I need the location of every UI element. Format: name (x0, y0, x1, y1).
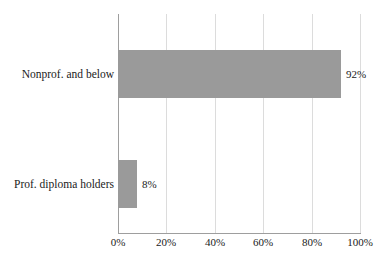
bar-value-label-prof-diploma: 8% (142, 179, 157, 190)
xtick-label-60: 60% (253, 237, 273, 248)
bar-prof-diploma-holders[interactable] (118, 160, 137, 208)
xtick-label-0: 0% (111, 237, 126, 248)
bar-nonprof-and-below[interactable] (118, 50, 341, 98)
bar-value-label-nonprof: 92% (346, 69, 366, 80)
xtick-label-80: 80% (302, 237, 322, 248)
gridline-40 (215, 14, 216, 233)
category-label-nonprof-and-below: Nonprof. and below (0, 69, 114, 81)
x-axis-line (118, 233, 361, 234)
category-label-prof-diploma-holders: Prof. diploma holders (0, 179, 114, 191)
gridline-80 (312, 14, 313, 233)
gridline-20 (166, 14, 167, 233)
xtick-label-40: 40% (205, 237, 225, 248)
gridline-60 (263, 14, 264, 233)
xtick-label-20: 20% (156, 237, 176, 248)
gridline-100 (360, 14, 361, 233)
xtick-label-100: 100% (347, 237, 373, 248)
plot-area: 92% 8% (118, 14, 360, 233)
bar-chart-figure: 92% 8% Nonprof. and below Prof. diploma … (0, 0, 389, 266)
